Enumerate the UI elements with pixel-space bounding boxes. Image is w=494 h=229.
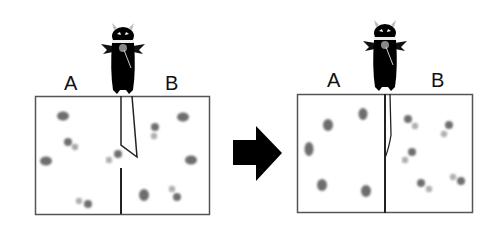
- chamber-label-a: A: [64, 73, 77, 93]
- diagram: A B A B: [0, 0, 494, 229]
- chamber-label-b: B: [165, 73, 178, 93]
- panel-before: [36, 23, 210, 215]
- panel-after: [298, 20, 473, 213]
- right-arrow-icon: [233, 126, 282, 181]
- maxwell-demon-icon: [363, 20, 407, 91]
- maxwell-demon-icon: [101, 23, 145, 94]
- molecules: [40, 112, 197, 209]
- gate-open: [121, 96, 137, 157]
- diagram-canvas: [0, 0, 494, 229]
- chamber-label-a: A: [327, 70, 340, 90]
- chamber-label-b: B: [431, 70, 444, 90]
